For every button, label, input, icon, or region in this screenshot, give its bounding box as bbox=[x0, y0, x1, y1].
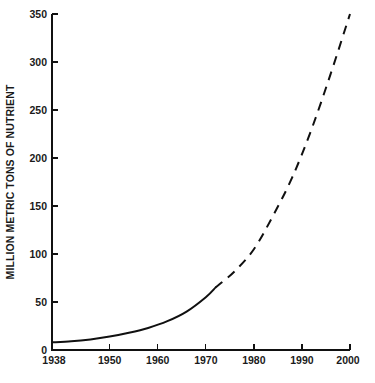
y-tick-label: 250 bbox=[29, 104, 47, 116]
y-axis-ticks: 050100150200250300350 bbox=[29, 8, 58, 356]
series-projected-line bbox=[215, 14, 350, 288]
data-series-group bbox=[52, 14, 350, 342]
axis-lines bbox=[52, 14, 350, 350]
y-tick-label: 150 bbox=[29, 200, 47, 212]
y-tick-label: 350 bbox=[29, 8, 47, 20]
y-tick-label: 100 bbox=[29, 248, 47, 260]
x-tick-label: 1938 bbox=[42, 354, 66, 366]
x-tick-label: 2000 bbox=[336, 354, 360, 366]
x-tick-label: 1950 bbox=[98, 354, 122, 366]
y-tick-label: 200 bbox=[29, 152, 47, 164]
y-axis-label: MILLION METRIC TONS OF NUTRIENT bbox=[4, 84, 16, 279]
chart-figure: MILLION METRIC TONS OF NUTRIENT 05010015… bbox=[0, 0, 375, 383]
x-tick-label: 1980 bbox=[242, 354, 266, 366]
y-tick-label: 300 bbox=[29, 56, 47, 68]
x-tick-label: 1970 bbox=[194, 354, 218, 366]
chart-canvas: MILLION METRIC TONS OF NUTRIENT 05010015… bbox=[0, 0, 375, 383]
x-tick-label: 1960 bbox=[146, 354, 170, 366]
y-tick-label: 50 bbox=[35, 296, 47, 308]
series-historical-line bbox=[52, 288, 215, 343]
x-axis-ticks: 1938195019601970198019902000 bbox=[42, 344, 360, 366]
x-tick-label: 1990 bbox=[290, 354, 314, 366]
axis-frame bbox=[52, 14, 350, 350]
y-axis-label-text: MILLION METRIC TONS OF NUTRIENT bbox=[4, 84, 16, 279]
